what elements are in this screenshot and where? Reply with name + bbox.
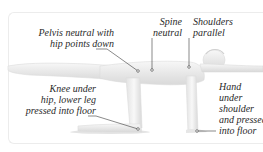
- label-spine-neutral: Spine neutral: [136, 16, 182, 38]
- label-hand-under-shoulder: Hand under shoulder and pressed into flo…: [219, 81, 263, 136]
- pelvis-point-dot: [137, 70, 140, 73]
- knee-point-dot: [137, 128, 140, 131]
- extended-arm-shape: [200, 64, 263, 72]
- diagram-canvas: Pelvis neutral with hip points down Spin…: [0, 0, 263, 152]
- thigh-shape: [126, 78, 142, 128]
- label-knee-under-hip: Knee under hip, lower leg pressed into f…: [14, 83, 96, 116]
- hand-point-dot: [196, 130, 199, 133]
- supporting-arm-shape: [186, 76, 198, 132]
- spine-point-dot: [151, 69, 154, 72]
- shoulder-point-dot: [188, 66, 191, 69]
- lower-leg-shape: [78, 124, 142, 132]
- label-shoulders-parallel: Shoulders parallel: [193, 16, 263, 38]
- label-pelvis-neutral: Pelvis neutral with hip points down: [16, 27, 114, 49]
